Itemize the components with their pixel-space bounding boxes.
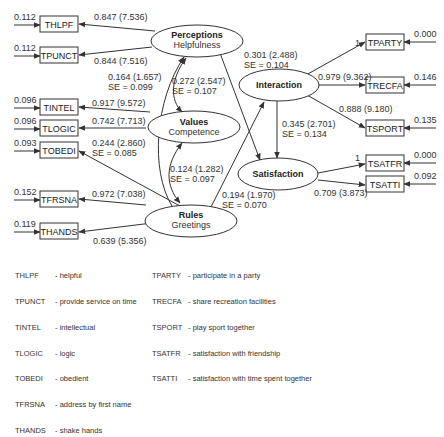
error-variance-tparty: 0.000 (414, 29, 437, 39)
indicator-tlogic: 0.096 TLOGIC (14, 116, 78, 136)
loading-arrow-tpunct (79, 47, 152, 55)
indicator-tsatti: 0.092 TSATTI (366, 171, 437, 192)
loading-arrow-tfrsna (79, 199, 146, 205)
legend-item: TSATFR - satisfaction with friendship (152, 350, 312, 359)
error-variance-thlpf: 0.112 (14, 12, 36, 22)
se-values-rules: SE = 0.097 (170, 174, 215, 184)
error-variance-tobedi: 0.093 (14, 138, 37, 148)
indicator-label-tsport: TSPORT (367, 124, 404, 134)
se-perceptions-satisfaction: SE = 0.104 (244, 60, 289, 70)
indicator-thlpf: 0.112 THLPF (14, 12, 78, 32)
indicator-label-trecfa: TRECFA (367, 81, 403, 91)
indicator-tsport: 0.135 TSPORT (366, 115, 437, 136)
legend-item: TOBEDI - obedient (15, 375, 137, 384)
loading-arrow-tsatti (318, 180, 365, 185)
indicator-label-tpunct: TPUNCT (41, 51, 78, 61)
indicator-label-thlpf: THLPF (45, 20, 74, 30)
loading-tpunct: 0.844 (7.516) (94, 56, 148, 66)
legend-item: THLPF - helpful (15, 272, 137, 281)
indicator-tobedi: 0.093 TOBEDI (14, 138, 78, 158)
indicator-label-tintel: TINTEL (43, 103, 74, 113)
indicator-label-tsatfr: TSATFR (368, 159, 403, 169)
legend-item: TPARTY - participate in a party (152, 272, 312, 281)
loading-thands: 0.639 (5.356) (93, 236, 147, 246)
indicator-tpunct: 0.112 TPUNCT (14, 43, 78, 63)
indicator-label-tfrsna: TFRSNA (41, 195, 77, 205)
loading-arrow-thands (79, 223, 152, 232)
latent-interaction-title: Interaction (256, 80, 302, 90)
legend-item: TSATTI - satisfaction with time spent to… (152, 375, 312, 384)
latent-rules-title: Rules (179, 210, 204, 220)
se-tobedi: SE = 0.085 (92, 148, 137, 158)
se-perceptions-values: SE = 0.107 (172, 86, 217, 96)
indicator-label-tobedi: TOBEDI (42, 146, 75, 156)
indicator-tintel: 0.096 TINTEL (14, 95, 78, 115)
indicator-trecfa: 0.146 TRECFA (366, 72, 437, 93)
error-variance-tintel: 0.096 (14, 95, 37, 105)
loading-arrow-tsatfr (318, 164, 365, 173)
error-variance-trecfa: 0.146 (414, 72, 437, 82)
coef-perceptions-satisfaction: 0.301 (2.488) (244, 50, 298, 60)
coef-rules-interaction: 0.194 (1.970) (222, 190, 276, 200)
indicator-tfrsna: 0.152 TFRSNA (14, 187, 78, 207)
loading-thlpf: 0.847 (7.536) (94, 12, 148, 22)
latent-interaction: Interaction (239, 69, 319, 101)
loading-trecfa: 0.979 (9.362) (318, 72, 372, 82)
legend-right: TPARTY - participate in a party TRECFA -… (152, 255, 312, 393)
legend-item: THANDS - shake hands (15, 427, 137, 436)
loading-tfrsna: 0.972 (7.038) (92, 189, 146, 199)
se-interaction-satisfaction: SE = 0.134 (282, 129, 327, 139)
error-variance-tsatfr: 0.000 (414, 150, 437, 160)
error-variance-tpunct: 0.112 (14, 43, 36, 53)
latent-perceptions-title: Perceptions (171, 30, 223, 40)
loading-tintel: 0.917 (9.572) (92, 98, 146, 108)
legend-item: TSPORT - play sport together (152, 324, 312, 333)
coef-rules-perceptions: 0.164 (1.657) (108, 72, 162, 82)
loading-tsatti: 0.709 (3.873) (314, 188, 368, 198)
latent-satisfaction-title: Satisfaction (252, 169, 303, 179)
latent-perceptions: Perceptions Helpfulness (151, 25, 243, 57)
indicator-label-tlogic: TLOGIC (42, 124, 76, 134)
indicator-label-tparty: TPARTY (368, 38, 403, 48)
loading-tsatfr: 1 (355, 153, 360, 163)
legend-left: THLPF - helpful TPUNCT - provide service… (15, 255, 137, 437)
latent-rules: Rules Greetings (145, 205, 237, 237)
error-variance-thands: 0.119 (14, 219, 36, 229)
latent-satisfaction: Satisfaction (238, 158, 318, 190)
latent-rules-subtitle: Greetings (171, 220, 211, 230)
legend-item: TLOGIC - logic (15, 350, 137, 359)
latent-values-title: Values (180, 117, 209, 127)
se-rules-interaction: SE = 0.070 (222, 200, 267, 210)
error-variance-tfrsna: 0.152 (14, 187, 37, 197)
legend-item: TPUNCT - provide service on time (15, 298, 137, 307)
indicator-tparty: 0.000 TPARTY (366, 29, 437, 50)
coef-perceptions-values: 0.272 (2.547) (172, 76, 226, 86)
loading-tlogic: 0.742 (7.713) (92, 116, 146, 126)
loading-arrow-thlpf (79, 24, 155, 31)
indicator-thands: 0.119 THANDS (14, 219, 78, 239)
latent-perceptions-subtitle: Helpfulness (173, 40, 221, 50)
indicator-tsatfr: 0.000 TSATFR (366, 150, 437, 171)
error-variance-tsport: 0.135 (414, 115, 437, 125)
legend-item: TINTEL - intellectual (15, 324, 137, 333)
error-variance-tlogic: 0.096 (14, 116, 37, 126)
latent-values-subtitle: Competence (168, 127, 219, 137)
loading-tparty: 1 (355, 38, 360, 48)
coef-interaction-satisfaction: 0.345 (2.701) (282, 119, 336, 129)
legend-item: TFRSNA - address by first name (15, 401, 137, 410)
se-rules-perceptions: SE = 0.099 (108, 82, 153, 92)
error-variance-tsatti: 0.092 (414, 171, 437, 181)
legend-item: TRECFA - share recreation facilities (152, 298, 312, 307)
indicator-label-tsatti: TSATTI (370, 180, 400, 190)
latent-values: Values Competence (148, 111, 240, 143)
coef-values-rules: 0.124 (1.282) (170, 164, 224, 174)
indicator-label-thands: THANDS (40, 227, 77, 237)
loading-tobedi: 0.244 (2.860) (92, 138, 146, 148)
loading-tsport: 0.888 (9.180) (339, 104, 393, 114)
